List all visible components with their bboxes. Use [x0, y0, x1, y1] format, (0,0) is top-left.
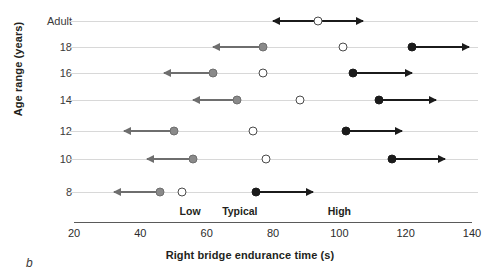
range-arrow-left [124, 130, 174, 132]
data-point-typical [313, 17, 322, 26]
data-point-high [375, 96, 384, 105]
row-gridline [68, 73, 478, 74]
y-axis-tick-14: 14 [6, 94, 72, 106]
arrow-head-left-icon [272, 17, 280, 25]
chart-row-16 [74, 73, 472, 74]
data-point-low [209, 69, 218, 78]
arrow-shaft [412, 46, 468, 48]
range-arrow-left [193, 99, 236, 101]
data-point-high [341, 127, 350, 136]
chart-row-14 [74, 100, 472, 101]
arrow-shaft [213, 46, 263, 48]
data-point-typical [338, 43, 347, 52]
y-axis-tick-18: 18 [6, 41, 72, 53]
data-point-typical [262, 155, 271, 164]
range-arrow-right [412, 46, 468, 48]
data-point-low [169, 127, 178, 136]
arrow-head-left-icon [146, 155, 154, 163]
range-arrow-right [346, 130, 402, 132]
arrow-head-right-icon [356, 17, 364, 25]
zone-label-typical: Typical [222, 205, 257, 217]
arrow-shaft [124, 130, 174, 132]
chart-row-12 [74, 131, 472, 132]
x-axis-tick-80: 80 [267, 227, 279, 239]
arrow-head-left-icon [113, 188, 121, 196]
panel-letter: b [26, 256, 33, 270]
arrow-head-left-icon [163, 69, 171, 77]
range-arrow-left [114, 191, 160, 193]
arrow-head-left-icon [192, 96, 200, 104]
arrow-head-right-icon [429, 96, 437, 104]
arrow-shaft [346, 130, 402, 132]
range-arrow-left [273, 20, 318, 22]
arrow-head-right-icon [405, 69, 413, 77]
arrow-head-right-icon [306, 188, 314, 196]
arrow-head-right-icon [462, 43, 470, 51]
arrow-head-left-icon [212, 43, 220, 51]
y-axis-tick-12: 12 [6, 125, 72, 137]
data-point-high [348, 69, 357, 78]
arrow-shaft [164, 72, 214, 74]
x-axis-label: Right bridge endurance time (s) [0, 249, 500, 261]
y-axis-tick-8: 8 [6, 186, 72, 198]
zone-label-high: High [328, 205, 351, 217]
x-axis-tick-140: 140 [463, 227, 481, 239]
x-axis-tick-100: 100 [330, 227, 348, 239]
chart-row-18 [74, 47, 472, 48]
range-arrow-left [147, 158, 193, 160]
data-point-low [232, 96, 241, 105]
x-axis-tick-20: 20 [68, 227, 80, 239]
x-axis-tick-40: 40 [134, 227, 146, 239]
y-axis-tick-10: 10 [6, 153, 72, 165]
y-axis-tick-adult: Adult [6, 15, 72, 27]
data-point-high [408, 43, 417, 52]
zone-label-low: Low [180, 205, 201, 217]
y-axis-tick-group: Adult18161412108 [0, 0, 72, 277]
range-arrow-right [392, 158, 445, 160]
range-arrow-left [164, 72, 214, 74]
range-arrow-right [379, 99, 435, 101]
data-point-low [156, 188, 165, 197]
arrow-shaft [256, 191, 312, 193]
chart-row-8 [74, 192, 472, 193]
data-point-typical [259, 69, 268, 78]
range-arrow-right [353, 72, 413, 74]
data-point-typical [177, 188, 186, 197]
arrow-head-left-icon [123, 127, 131, 135]
arrow-head-right-icon [438, 155, 446, 163]
chart-row-adult [74, 21, 472, 22]
chart-row-10 [74, 159, 472, 160]
x-axis-line [74, 222, 472, 223]
range-arrow-right [318, 20, 363, 22]
data-point-typical [249, 127, 258, 136]
arrow-shaft [353, 72, 413, 74]
data-point-high [388, 155, 397, 164]
data-point-low [189, 155, 198, 164]
range-arrow-left [213, 46, 263, 48]
y-axis-tick-16: 16 [6, 67, 72, 79]
data-point-high [252, 188, 261, 197]
range-arrow-right [256, 191, 312, 193]
data-point-low [259, 43, 268, 52]
x-axis-tick-60: 60 [201, 227, 213, 239]
x-axis-tick-120: 120 [396, 227, 414, 239]
arrow-shaft [379, 99, 435, 101]
arrow-head-right-icon [395, 127, 403, 135]
data-point-typical [295, 96, 304, 105]
chart-figure: Age range (years) Adult18161412108 Right… [0, 0, 500, 277]
